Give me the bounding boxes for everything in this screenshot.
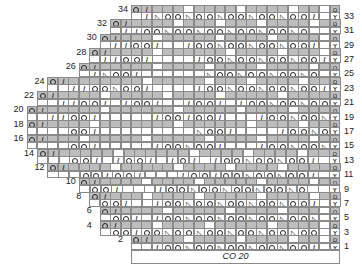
row-label: 8 bbox=[76, 192, 81, 200]
row-label: 21 bbox=[344, 98, 354, 106]
row-label: 30 bbox=[87, 33, 97, 41]
row-label: 24 bbox=[34, 77, 44, 85]
row-label: 16 bbox=[14, 134, 24, 142]
row-label: 28 bbox=[76, 48, 86, 56]
row-label: 3 bbox=[344, 228, 349, 236]
row-label: 22 bbox=[24, 91, 34, 99]
row-label: 9 bbox=[344, 185, 349, 193]
row-label: 10 bbox=[66, 177, 76, 185]
row-label: 29 bbox=[344, 41, 354, 49]
row-label: 20 bbox=[14, 105, 24, 113]
row-label: 25 bbox=[344, 69, 354, 77]
row-label: 5 bbox=[344, 213, 349, 221]
row-label: 11 bbox=[344, 170, 353, 178]
row-label: 33 bbox=[344, 12, 354, 20]
row-label: 17 bbox=[344, 127, 354, 135]
row-label: 15 bbox=[344, 141, 354, 149]
row-label: 34 bbox=[118, 5, 128, 13]
chart-cell bbox=[47, 171, 58, 179]
cast-on-label: CO 20 bbox=[131, 251, 340, 261]
row-label: 2 bbox=[118, 235, 123, 243]
row-label: 31 bbox=[344, 26, 354, 34]
row-label: 12 bbox=[34, 163, 44, 171]
row-label: 27 bbox=[344, 55, 354, 63]
row-label: 23 bbox=[344, 84, 354, 92]
row-label: 18 bbox=[14, 120, 24, 128]
row-label: 4 bbox=[87, 221, 92, 229]
row-label: 6 bbox=[87, 206, 92, 214]
row-label: 1 bbox=[344, 242, 349, 250]
knitting-chart: 3433323130292827262524232221201918171615… bbox=[0, 0, 362, 279]
row-label: 7 bbox=[344, 199, 349, 207]
chart-cell bbox=[100, 228, 111, 236]
row-label: 19 bbox=[344, 113, 354, 121]
row-label: 14 bbox=[24, 149, 34, 157]
row-label: 32 bbox=[97, 19, 107, 27]
row-label: 13 bbox=[344, 156, 354, 164]
row-label: 26 bbox=[66, 62, 76, 70]
